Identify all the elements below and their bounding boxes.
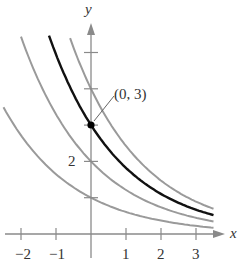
x-axis-arrow-icon — [213, 230, 225, 238]
y-tick-label-2: 2 — [68, 153, 76, 169]
chart-container: (0, 3) x y 2 −2 −1 1 2 3 — [0, 0, 240, 266]
x-tick-label-neg2: −2 — [15, 246, 31, 262]
ticks — [21, 53, 196, 241]
curve-series-3 — [4, 107, 214, 227]
curves — [4, 36, 214, 228]
point-label: (0, 3) — [114, 86, 147, 103]
y-axis-label: y — [83, 1, 92, 17]
point-marker — [87, 121, 94, 128]
x-tick-label-2: 2 — [157, 246, 165, 262]
x-tick-label-3: 3 — [192, 246, 200, 262]
plot-area: (0, 3) x y 2 −2 −1 1 2 3 — [0, 0, 240, 266]
y-axis-arrow-icon — [87, 23, 95, 35]
x-tick-label-neg1: −1 — [49, 246, 65, 262]
curve-series-2 — [21, 37, 214, 222]
x-tick-label-1: 1 — [122, 246, 130, 262]
x-axis-label: x — [229, 225, 237, 241]
